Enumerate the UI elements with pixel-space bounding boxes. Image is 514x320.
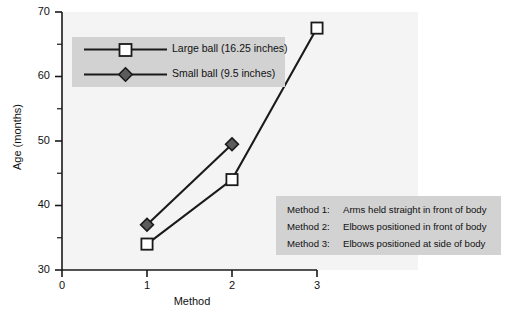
methods-key-2: Method 2: bbox=[287, 221, 343, 232]
y-tick-label-40: 40 bbox=[24, 198, 50, 210]
x-tick-label-1: 1 bbox=[137, 279, 157, 291]
legend-swatch-filled-diamond bbox=[82, 62, 169, 87]
y-tick-label-30: 30 bbox=[24, 263, 50, 275]
methods-line-1: Method 1:Arms held straight in front of … bbox=[287, 204, 486, 215]
x-tick-label-0: 0 bbox=[52, 279, 72, 291]
y-tick-label-60: 60 bbox=[24, 69, 50, 81]
legend-item-small-ball: Small ball (9.5 inches) bbox=[72, 62, 285, 87]
y-tick-label-70: 70 bbox=[24, 5, 50, 17]
data-point-large-ball-m2 bbox=[226, 174, 237, 185]
methods-key-3: Method 3: bbox=[287, 238, 343, 249]
legend-item-large-ball: Large ball (16.25 inches) bbox=[72, 37, 285, 62]
chart-figure: 70 60 50 40 30 0 1 2 3 Method Age (month… bbox=[0, 0, 514, 320]
y-tick-label-50: 50 bbox=[24, 134, 50, 146]
y-axis-major-ticks bbox=[55, 12, 62, 270]
x-tick-label-3: 3 bbox=[307, 279, 327, 291]
x-tick-label-2: 2 bbox=[222, 279, 242, 291]
methods-annotation-box: Method 1:Arms held straight in front of … bbox=[276, 196, 501, 255]
methods-line-2: Method 2:Elbows positioned in front of b… bbox=[287, 221, 486, 232]
methods-text-2: Elbows positioned in front of body bbox=[343, 221, 486, 232]
data-point-large-ball-m3 bbox=[311, 23, 322, 34]
y-axis-title: Age (months) bbox=[11, 82, 23, 192]
x-axis-title: Method bbox=[0, 295, 449, 307]
legend-label-small-ball: Small ball (9.5 inches) bbox=[172, 67, 275, 79]
methods-line-3: Method 3:Elbows positioned at side of bo… bbox=[287, 238, 485, 249]
legend-label-large-ball: Large ball (16.25 inches) bbox=[172, 42, 288, 54]
legend-swatch-open-square bbox=[82, 37, 169, 62]
legend: Large ball (16.25 inches) Small ball (9.… bbox=[72, 37, 285, 87]
methods-key-1: Method 1: bbox=[287, 204, 343, 215]
methods-text-1: Arms held straight in front of body bbox=[343, 204, 486, 215]
data-point-large-ball-m1 bbox=[141, 239, 152, 250]
methods-text-3: Elbows positioned at side of body bbox=[343, 238, 485, 249]
x-axis-ticks bbox=[62, 270, 317, 277]
